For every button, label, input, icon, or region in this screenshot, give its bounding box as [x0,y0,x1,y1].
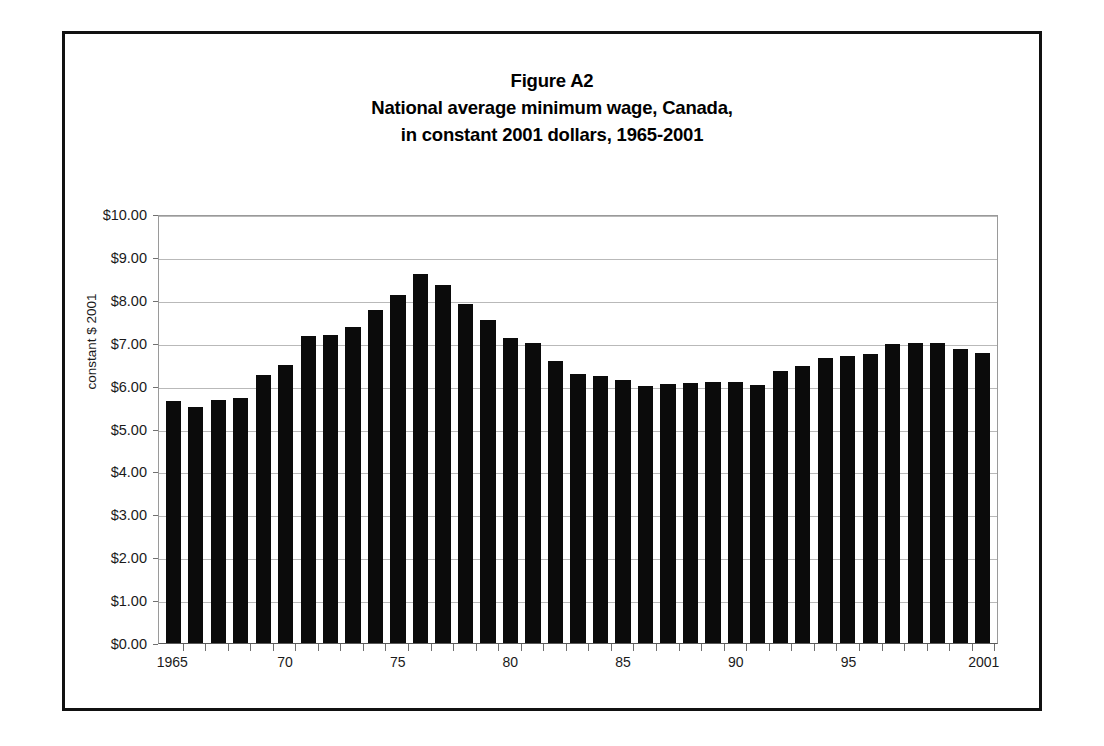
y-tick-label: $1.00 [111,593,147,609]
bar-1967 [211,400,226,643]
x-tick-label: 90 [728,654,744,670]
bar-slot [454,216,476,643]
x-tick-label: 70 [277,654,293,670]
y-tick-label: $4.00 [111,464,147,480]
x-tick-label: 85 [615,654,631,670]
bar-slot [589,216,611,643]
bar-slot [364,216,386,643]
y-tick-label: $10.00 [103,207,147,223]
bar-slot [679,216,701,643]
bar-1988 [683,383,698,643]
bar-slot [342,216,364,643]
bar-1995 [840,356,855,643]
bar-series [159,216,997,643]
bar-slot [252,216,274,643]
bar-1978 [458,304,473,643]
bar-1968 [233,398,248,643]
x-tick-label: 80 [503,654,519,670]
bar-slot [837,216,859,643]
bar-slot [499,216,521,643]
bar-slot [724,216,746,643]
x-tick-slot [477,644,500,651]
bar-1973 [345,327,360,643]
bar-slot [522,216,544,643]
plot-area [158,215,998,644]
y-tick-label: $6.00 [111,379,147,395]
x-tick-slot [792,644,815,651]
x-tick-slot [184,644,207,651]
figure-title-line-2: National average minimum wage, Canada, [65,94,1039,121]
x-tick-slot [747,644,770,651]
x-tick-slot [409,644,432,651]
bar-slot [814,216,836,643]
bar-1998 [908,343,923,643]
bar-slot [387,216,409,643]
bar-slot [882,216,904,643]
bar-slot [409,216,431,643]
bar-1997 [885,344,900,643]
bar-1985 [615,380,630,643]
y-tick-label: $8.00 [111,293,147,309]
x-tick-slot [432,644,455,651]
x-tick-slot [499,644,522,651]
bar-slot [612,216,634,643]
y-tick-label: $2.00 [111,550,147,566]
bar-slot [184,216,206,643]
x-tick-slot [883,644,906,651]
x-tick-slot [770,644,793,651]
x-tick-slot [567,644,590,651]
bar-1993 [795,366,810,643]
y-tick-label: $7.00 [111,336,147,352]
bar-1979 [480,320,495,643]
y-tick-label: $9.00 [111,250,147,266]
bar-1990 [728,382,743,643]
y-tick-label: $5.00 [111,422,147,438]
bar-slot [477,216,499,643]
bar-slot [634,216,656,643]
x-tick-mark [994,644,995,651]
x-tick-slot [815,644,838,651]
bar-slot [207,216,229,643]
x-tick-label: 2001 [968,654,999,670]
x-tick-slot [274,644,297,651]
x-tick-slot [544,644,567,651]
bar-1981 [525,343,540,643]
bar-slot [162,216,184,643]
x-tick-slot [589,644,612,651]
x-tick-slot [161,644,184,651]
bar-slot [769,216,791,643]
bar-slot [297,216,319,643]
x-tick-slot [928,644,951,651]
bar-1989 [705,382,720,643]
y-axis-labels: $0.00$1.00$2.00$3.00$4.00$5.00$6.00$7.00… [65,215,153,644]
bar-1965 [166,401,181,643]
x-tick-slot [950,644,973,651]
bar-1982 [548,361,563,643]
bar-slot [949,216,971,643]
bar-1991 [750,385,765,643]
bar-1980 [503,338,518,643]
x-tick-slot [725,644,748,651]
bar-slot [567,216,589,643]
x-tick-slot [634,644,657,651]
bar-1977 [435,285,450,643]
bar-slot [859,216,881,643]
bar-1984 [593,376,608,643]
bar-1986 [638,386,653,643]
x-tick-label: 95 [841,654,857,670]
bar-slot [747,216,769,643]
bar-1974 [368,310,383,643]
bar-slot [319,216,341,643]
x-tick-slot [702,644,725,651]
x-tick-slot [612,644,635,651]
figure-title-line-1: Figure A2 [65,67,1039,94]
bar-1971 [301,336,316,643]
y-tick-label: $0.00 [111,636,147,652]
x-tick-slot [905,644,928,651]
bar-slot [971,216,993,643]
x-axis-ticks [158,644,998,651]
x-tick-slot [296,644,319,651]
figure-frame: Figure A2 National average minimum wage,… [62,31,1042,711]
bar-slot [792,216,814,643]
bar-1996 [863,354,878,643]
